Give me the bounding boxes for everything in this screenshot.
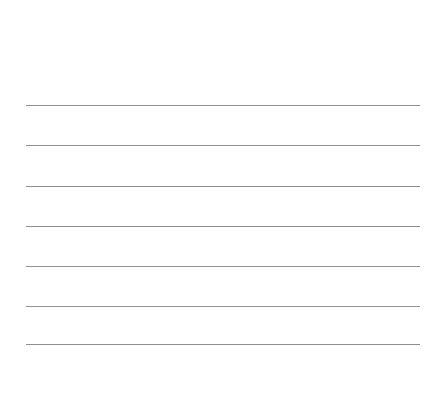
ruled-paper-page <box>0 0 446 412</box>
rule-line <box>26 226 420 227</box>
rule-line <box>26 145 420 146</box>
rule-line <box>26 266 420 267</box>
rule-line <box>26 186 420 187</box>
rule-line <box>26 105 420 106</box>
footer-blank-space <box>0 345 446 412</box>
rule-line <box>26 306 420 307</box>
